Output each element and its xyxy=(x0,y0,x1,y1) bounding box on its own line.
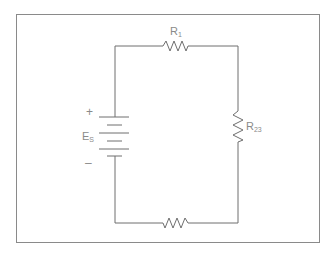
resistor-r23 xyxy=(233,111,243,142)
negative-sign: – xyxy=(85,157,92,169)
positive-sign: + xyxy=(86,106,93,118)
r23-subscript: 23 xyxy=(254,126,262,133)
label-r1: R1 xyxy=(170,26,182,38)
label-r23: R23 xyxy=(246,121,262,133)
es-subscript: S xyxy=(89,136,94,143)
r23-letter: R xyxy=(246,120,254,132)
circuit-diagram xyxy=(0,0,335,253)
wire-right xyxy=(188,142,238,223)
resistor-r1 xyxy=(163,41,188,51)
r1-subscript: 1 xyxy=(178,31,182,38)
label-es: ES xyxy=(82,131,94,143)
resistor-bottom xyxy=(163,218,188,228)
wire-bottom xyxy=(115,156,163,223)
r1-letter: R xyxy=(170,25,178,37)
